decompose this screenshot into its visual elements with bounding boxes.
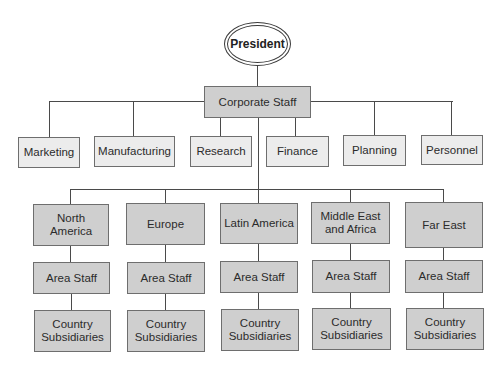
area-staff-label: Area Staff bbox=[326, 270, 377, 283]
region-node-far-east: Far East bbox=[405, 202, 483, 248]
region-label: Latin America bbox=[224, 217, 294, 230]
subsidiaries-label: Country Subsidiaries bbox=[410, 316, 480, 342]
connector-fe bbox=[443, 189, 444, 202]
connector-na-sub bbox=[71, 294, 72, 310]
function-label: Manufacturing bbox=[98, 145, 171, 158]
subsidiaries-node-middle-east-africa: Country Subsidiaries bbox=[312, 308, 391, 350]
function-label: Marketing bbox=[24, 146, 75, 159]
region-label: Far East bbox=[422, 219, 465, 232]
subsidiaries-node-latin-america: Country Subsidiaries bbox=[221, 309, 299, 351]
region-node-europe: Europe bbox=[126, 203, 205, 245]
area-staff-node-north-america: Area Staff bbox=[33, 262, 110, 294]
subsidiaries-label: Country Subsidiaries bbox=[317, 316, 387, 342]
subsidiaries-node-far-east: Country Subsidiaries bbox=[406, 308, 484, 350]
function-node-personnel: Personnel bbox=[421, 135, 483, 165]
region-label: Middle East and Africa bbox=[316, 210, 386, 236]
area-staff-node-latin-america: Area Staff bbox=[220, 261, 298, 293]
subsidiaries-label: Country Subsidiaries bbox=[225, 317, 295, 343]
connector-president-corporate bbox=[257, 66, 258, 86]
region-node-latin-america: Latin America bbox=[220, 203, 298, 244]
connector-la-area bbox=[258, 244, 259, 262]
function-label: Finance bbox=[277, 145, 318, 158]
president-label: President bbox=[227, 25, 288, 63]
region-node-north-america: North America bbox=[33, 204, 109, 246]
connector-finance bbox=[295, 118, 296, 136]
connector-research bbox=[220, 118, 221, 136]
area-staff-node-middle-east-africa: Area Staff bbox=[312, 260, 390, 293]
function-label: Planning bbox=[352, 144, 397, 157]
connector-eu-sub bbox=[165, 294, 166, 310]
connector-la-sub bbox=[258, 293, 259, 310]
connector-eu bbox=[165, 189, 166, 203]
subsidiaries-label: Country Subsidiaries bbox=[38, 318, 108, 344]
connector-na bbox=[70, 189, 71, 204]
subsidiaries-label: Country Subsidiaries bbox=[131, 318, 201, 344]
area-staff-node-europe: Area Staff bbox=[127, 262, 205, 294]
area-staff-label: Area Staff bbox=[234, 271, 285, 284]
connector-manufacturing bbox=[133, 101, 134, 136]
subsidiaries-node-north-america: Country Subsidiaries bbox=[34, 310, 111, 352]
connector-eu-area bbox=[165, 245, 166, 262]
area-staff-label: Area Staff bbox=[46, 272, 97, 285]
connector-personnel bbox=[451, 101, 452, 135]
corporate-staff-label: Corporate Staff bbox=[219, 96, 297, 109]
connector-marketing bbox=[49, 101, 50, 137]
function-node-marketing: Marketing bbox=[18, 137, 80, 168]
function-node-research: Research bbox=[190, 136, 252, 167]
connector-corporate-regions bbox=[258, 118, 259, 189]
function-node-planning: Planning bbox=[343, 135, 406, 166]
area-staff-label: Area Staff bbox=[141, 272, 192, 285]
region-label: North America bbox=[46, 212, 96, 238]
function-label: Personnel bbox=[426, 144, 478, 157]
region-node-middle-east-africa: Middle East and Africa bbox=[311, 202, 390, 244]
area-staff-node-far-east: Area Staff bbox=[405, 260, 483, 293]
connector-la bbox=[258, 189, 259, 203]
corporate-staff-node: Corporate Staff bbox=[204, 86, 311, 118]
connector-region-bus bbox=[70, 189, 444, 190]
region-label: Europe bbox=[147, 218, 184, 231]
subsidiaries-node-europe: Country Subsidiaries bbox=[127, 310, 205, 352]
function-label: Research bbox=[196, 145, 245, 158]
function-node-manufacturing: Manufacturing bbox=[94, 136, 175, 167]
connector-planning bbox=[374, 101, 375, 136]
connector-na-area bbox=[70, 245, 71, 262]
connector-mea bbox=[350, 189, 351, 202]
area-staff-label: Area Staff bbox=[419, 270, 470, 283]
president-node: President bbox=[224, 22, 291, 66]
function-node-finance: Finance bbox=[266, 136, 329, 167]
